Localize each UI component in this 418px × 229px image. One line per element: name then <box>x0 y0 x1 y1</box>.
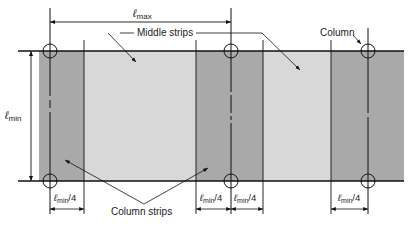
middle-strip-right <box>263 51 331 181</box>
l-max-label: ℓmax <box>132 7 152 21</box>
quarter-dimension-label: ℓmin/4 <box>199 192 222 204</box>
column-strip-left <box>39 51 84 181</box>
column-leader <box>353 35 361 44</box>
middle-strip-left <box>84 51 196 181</box>
quarter-dimension-label: ℓmin/4 <box>337 192 360 204</box>
quarter-dimension-label: ℓmin/4 <box>53 192 76 204</box>
column-label: Column <box>320 27 354 38</box>
column-strips-label: Column strips <box>111 206 172 217</box>
flat-slab-strip-diagram: ℓmax ℓmin Middle strips Column Column st… <box>0 0 418 229</box>
quarter-dimension-label: ℓmin/4 <box>233 192 256 204</box>
column-strip-center <box>196 51 263 181</box>
middle-strips-label: Middle strips <box>137 27 193 38</box>
